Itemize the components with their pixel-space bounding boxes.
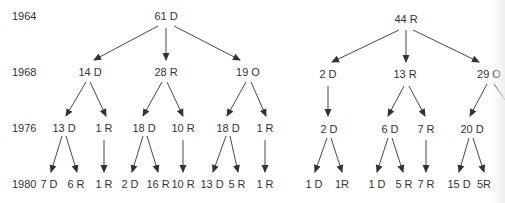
arrow [377,138,388,172]
arrow [143,82,162,116]
arrow [227,82,246,116]
node-1980: 13 D [200,178,223,190]
arrow [332,30,399,62]
node-1976: 13 D [52,122,75,134]
page-edge-shadow [491,0,505,203]
node-root-left: 61 D [154,10,177,22]
arrow [51,136,62,172]
node-1980: 5 R [228,178,245,190]
arrow [132,136,143,172]
node-1980: 7 R [417,178,434,190]
year-label-1976: 1976 [12,122,36,134]
arrow [230,136,238,172]
node-1976: 1 R [95,122,112,134]
node-1980: 2 D [121,178,138,190]
node-1980: 5R [477,178,491,190]
arrow [388,86,404,116]
node-root-right: 44 R [394,13,417,25]
node-1976: 6 D [381,123,398,135]
arrow [315,138,327,172]
node-1968: 14 D [78,66,101,78]
node-1980: 10 R [171,178,194,190]
node-1980: 5 R [395,178,412,190]
year-label-1964: 1964 [12,10,36,22]
arrow [66,82,86,116]
node-1980: 1R [335,178,349,190]
node-1980: 7 D [40,178,57,190]
node-1976: 20 D [460,123,483,135]
arrows-layer [0,0,505,203]
node-1976: 2 D [320,123,337,135]
node-1980: 1 R [256,178,273,190]
arrow [470,84,487,116]
arrow [251,82,266,116]
arrow [174,26,240,60]
year-label-1980: 1980 [12,178,36,190]
node-1980: 6 R [67,178,84,190]
arrow [94,26,158,60]
arrow [331,138,342,172]
arrow [459,138,469,172]
node-1976: 10 R [171,122,194,134]
node-1968: 13 R [393,68,416,80]
year-label-1968: 1968 [12,66,36,78]
arrow [413,30,479,62]
arrow [90,82,106,116]
arrow [167,82,183,116]
node-1976: 7 R [417,123,434,135]
arrow [409,86,425,116]
arrow [147,136,158,172]
node-1976: 1 R [256,122,273,134]
arrow [66,136,77,172]
transition-tree-diagram: 1964 1968 1976 1980 61 D 14 D 28 R 19 O … [0,0,505,203]
arrow [213,136,226,172]
node-1980: 15 D [447,178,470,190]
arrow [392,138,403,172]
node-1976: 18 D [132,122,155,134]
arrow [473,138,484,172]
node-1980: 1 R [95,178,112,190]
node-1980: 1 D [305,178,322,190]
node-1968: 28 R [154,66,177,78]
node-1968: 19 O [236,66,260,78]
node-1980: 16 R [146,178,169,190]
node-1968: 2 D [319,68,336,80]
node-1976: 18 D [216,122,239,134]
node-1980: 1 D [368,178,385,190]
